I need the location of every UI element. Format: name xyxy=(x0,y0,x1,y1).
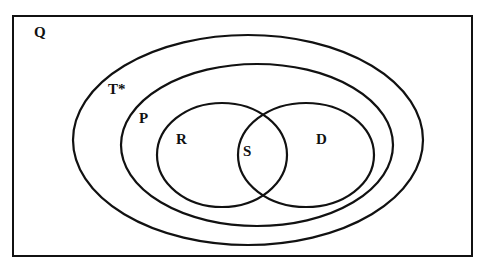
label-p: P xyxy=(139,110,148,126)
set-r-ellipse xyxy=(157,103,287,207)
venn-diagram: Q T* P R D S xyxy=(0,0,482,266)
set-p-ellipse xyxy=(121,64,393,226)
label-t-star: T* xyxy=(108,81,126,97)
label-r: R xyxy=(176,131,187,147)
set-d-ellipse xyxy=(238,103,374,207)
label-d: D xyxy=(316,131,327,147)
label-q: Q xyxy=(34,24,46,40)
label-s-intersection: S xyxy=(243,143,251,159)
